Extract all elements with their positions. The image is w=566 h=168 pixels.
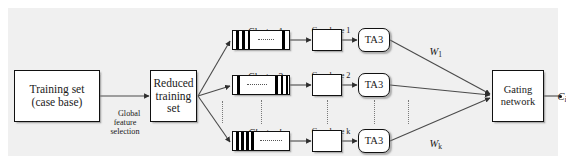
cluster-2-bar-4	[286, 76, 288, 94]
cluster-box-k[interactable]	[232, 131, 290, 151]
cluster-k-bar-1	[236, 132, 239, 150]
box-training-set-label: Training set (case base)	[30, 83, 85, 109]
cluster-2-bar-2	[275, 76, 278, 94]
vertical-ellipsis-ta3	[374, 100, 375, 124]
label-weight-1-subscript: 1	[438, 50, 442, 59]
box-ta3-k[interactable]: TA3	[358, 129, 390, 153]
box-case-base-2[interactable]	[312, 74, 342, 96]
cluster-1-ellipsis	[258, 39, 274, 41]
edge-reduced-to-cluster-k	[198, 96, 230, 142]
cluster-k-bar-4	[251, 132, 254, 150]
box-case-base-k[interactable]	[312, 130, 342, 152]
cluster-1-bar-4	[282, 31, 285, 49]
box-ta3-1[interactable]: TA3	[358, 28, 390, 52]
box-ta3-2-label: TA3	[365, 79, 383, 91]
cluster-1-bar-3	[248, 31, 250, 49]
box-case-base-1[interactable]	[312, 29, 342, 51]
box-reduced-training-set-label: Reduced training set	[153, 77, 193, 116]
cluster-1-bar-2	[242, 31, 245, 49]
cluster-k-bar-2	[241, 132, 244, 150]
label-output-ci: Ci	[547, 79, 566, 116]
cluster-box-1[interactable]	[232, 30, 290, 50]
label-global-feature-selection: Global feature selection	[102, 100, 148, 145]
label-weight-1: W1	[419, 34, 442, 71]
cluster-box-2[interactable]	[232, 75, 290, 95]
cluster-k-ellipsis	[260, 140, 282, 142]
output-terminal-dot	[559, 95, 562, 98]
vertical-ellipsis-weights	[408, 100, 409, 124]
cluster-2-bar-1	[237, 76, 240, 94]
box-training-set[interactable]: Training set (case base)	[14, 70, 100, 122]
cluster-2-ellipsis	[247, 84, 267, 86]
label-weight-1-text: W	[430, 46, 439, 57]
box-gating-network-label: Gating network	[501, 84, 535, 108]
vertical-ellipsis-fanout	[222, 101, 223, 123]
box-ta3-1-label: TA3	[365, 34, 383, 46]
box-gating-network[interactable]: Gating network	[492, 70, 544, 122]
box-ta3-k-label: TA3	[365, 135, 383, 147]
label-weight-k-subscript: k	[438, 142, 442, 151]
label-weight-k: Wk	[419, 126, 442, 163]
figure-root: Training set (case base) Reduced trainin…	[0, 0, 566, 168]
label-weight-k-text: W	[430, 138, 439, 149]
box-ta3-2[interactable]: TA3	[358, 73, 390, 97]
cluster-2-bar-3	[281, 76, 283, 94]
cluster-k-bar-3	[246, 132, 249, 150]
box-reduced-training-set[interactable]: Reduced training set	[150, 70, 197, 122]
cluster-1-bar-1	[236, 31, 239, 49]
